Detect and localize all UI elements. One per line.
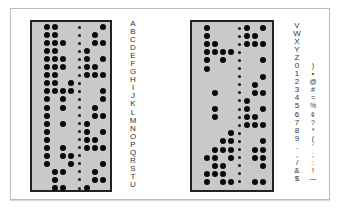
tape-hole bbox=[212, 147, 218, 153]
tape-hole bbox=[44, 121, 50, 127]
tape-hole bbox=[60, 185, 66, 191]
sprocket-hole bbox=[238, 75, 241, 78]
sprocket-hole bbox=[238, 148, 241, 151]
tape-hole bbox=[252, 114, 258, 120]
symbol-labels-right: )•@#=%¢?*(';:!— bbox=[308, 22, 318, 183]
sprocket-hole bbox=[78, 58, 81, 61]
tape-hole bbox=[52, 185, 58, 191]
tape-hole bbox=[52, 48, 58, 54]
tape-hole bbox=[260, 25, 266, 31]
tape-hole bbox=[52, 80, 58, 86]
tape-hole bbox=[244, 114, 250, 120]
tape-hole bbox=[60, 88, 66, 94]
tape-hole bbox=[212, 90, 218, 96]
tape-hole bbox=[204, 33, 210, 39]
tape-hole bbox=[204, 41, 210, 47]
tape-hole bbox=[52, 32, 58, 38]
tape-hole bbox=[92, 177, 98, 183]
tape-hole bbox=[68, 161, 74, 167]
character-label: ' bbox=[308, 143, 318, 151]
tape-hole bbox=[212, 106, 218, 112]
tape-hole bbox=[252, 41, 258, 47]
tape-hole bbox=[212, 49, 218, 55]
sprocket-hole bbox=[238, 59, 241, 62]
character-label: : bbox=[308, 159, 318, 167]
tape-hole bbox=[204, 49, 210, 55]
tape-hole bbox=[92, 145, 98, 151]
tape-hole bbox=[244, 25, 250, 31]
tape-hole bbox=[228, 130, 234, 136]
tape-hole bbox=[228, 147, 234, 153]
character-label: • bbox=[308, 70, 318, 78]
tape-hole bbox=[100, 113, 106, 119]
tape-hole bbox=[252, 155, 258, 161]
tape-hole bbox=[84, 185, 90, 191]
tape-hole bbox=[252, 179, 258, 185]
tape-hole bbox=[92, 169, 98, 175]
tape-hole bbox=[260, 57, 266, 63]
tape-hole bbox=[44, 32, 50, 38]
tape-hole bbox=[44, 129, 50, 135]
tape-hole bbox=[60, 169, 66, 175]
tape-hole bbox=[212, 155, 218, 161]
tape-hole bbox=[44, 145, 50, 151]
tape-hole bbox=[204, 171, 210, 177]
sprocket-hole bbox=[78, 34, 81, 37]
sprocket-hole bbox=[78, 90, 81, 93]
character-label: ( bbox=[308, 135, 318, 143]
sprocket-hole bbox=[238, 43, 241, 46]
tape-hole bbox=[68, 80, 74, 86]
tape-hole bbox=[84, 48, 90, 54]
sprocket-hole bbox=[78, 138, 81, 141]
sprocket-hole bbox=[78, 154, 81, 157]
tape-hole bbox=[44, 72, 50, 78]
sprocket-hole bbox=[238, 180, 241, 183]
sprocket-hole bbox=[238, 99, 241, 102]
character-label bbox=[308, 30, 318, 38]
character-label: = bbox=[308, 94, 318, 102]
tape-hole bbox=[44, 105, 50, 111]
sprocket-hole bbox=[238, 108, 241, 111]
sprocket-hole bbox=[78, 114, 81, 117]
punched-tape-left bbox=[30, 20, 112, 192]
character-label: ! bbox=[308, 167, 318, 175]
sprocket-hole bbox=[78, 82, 81, 85]
tape-hole bbox=[52, 169, 58, 175]
tape-hole bbox=[220, 138, 226, 144]
tape-hole bbox=[44, 96, 50, 102]
tape-hole bbox=[260, 147, 266, 153]
tape-hole bbox=[60, 64, 66, 70]
tape-hole bbox=[44, 80, 50, 86]
tape-hole bbox=[52, 24, 58, 30]
tape-hole bbox=[260, 179, 266, 185]
sprocket-hole bbox=[78, 42, 81, 45]
character-label: ) bbox=[308, 62, 318, 70]
character-labels-right: VWXYZ0123456789.,/&$ bbox=[292, 22, 302, 183]
sprocket-hole bbox=[238, 116, 241, 119]
tape-hole bbox=[60, 153, 66, 159]
sprocket-hole bbox=[238, 35, 241, 38]
tape-hole bbox=[220, 179, 226, 185]
tape-hole bbox=[212, 163, 218, 169]
tape-hole bbox=[52, 72, 58, 78]
sprocket-hole bbox=[78, 98, 81, 101]
tape-hole bbox=[260, 74, 266, 80]
tape-hole bbox=[92, 32, 98, 38]
tape-hole bbox=[212, 41, 218, 47]
tape-hole bbox=[44, 113, 50, 119]
sprocket-hole bbox=[78, 50, 81, 53]
tape-hole bbox=[228, 179, 234, 185]
sprocket-hole bbox=[238, 51, 241, 54]
tape-hole bbox=[244, 33, 250, 39]
tape-hole bbox=[44, 137, 50, 143]
character-label: ; bbox=[308, 151, 318, 159]
tape-hole bbox=[100, 177, 106, 183]
tape-hole bbox=[100, 40, 106, 46]
punched-tape-right bbox=[190, 20, 274, 192]
tape-hole bbox=[212, 171, 218, 177]
tape-hole bbox=[260, 106, 266, 112]
tape-hole bbox=[220, 147, 226, 153]
sprocket-hole bbox=[78, 187, 81, 190]
tape-hole bbox=[44, 88, 50, 94]
tape-hole bbox=[52, 40, 58, 46]
